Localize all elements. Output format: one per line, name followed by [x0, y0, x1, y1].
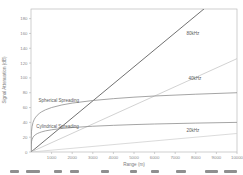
- caption-smudge: [70, 170, 79, 173]
- x-tick-label: 2000: [67, 155, 77, 160]
- x-tick-label: 6000: [150, 155, 160, 160]
- caption-smudge: [130, 170, 137, 173]
- x-tick-label: 5000: [129, 155, 139, 160]
- y-tick-label: 80: [23, 90, 28, 95]
- series-label: 20kHz: [187, 128, 201, 133]
- caption-smudge: [224, 170, 237, 173]
- y-tick-label: 60: [23, 105, 28, 110]
- plot-box: [31, 9, 237, 152]
- x-tick-label: 10000: [231, 155, 243, 160]
- attenuation-vs-range-chart: 0204060801001201401601801000200030004000…: [0, 0, 243, 175]
- series-line-20khz: [31, 133, 237, 152]
- series-label: 80kHz: [187, 31, 201, 36]
- caption-smudge: [26, 170, 40, 173]
- caption-smudge: [151, 170, 159, 173]
- x-tick-label: 9000: [212, 155, 222, 160]
- y-tick-label: 180: [20, 16, 28, 21]
- y-tick-label: 160: [20, 31, 28, 36]
- y-tick-label: 20: [23, 135, 28, 140]
- caption-smudge: [205, 170, 218, 173]
- y-tick-label: 140: [20, 46, 28, 51]
- x-tick-label: 1000: [47, 155, 57, 160]
- x-tick-label: 4000: [109, 155, 119, 160]
- axes: 0204060801001201401601801000200030004000…: [20, 9, 243, 160]
- x-tick-label: 7000: [170, 155, 180, 160]
- series-label: Spherical Spreading: [38, 98, 79, 103]
- x-tick-label: 8000: [191, 155, 201, 160]
- x-tick-label: 3000: [88, 155, 98, 160]
- series-label: Cylindrical Spreading: [36, 124, 79, 129]
- series-label: 40kHz: [189, 76, 203, 81]
- y-tick-label: 40: [23, 120, 28, 125]
- caption-smudge: [54, 170, 62, 173]
- y-tick-label: 100: [20, 75, 28, 80]
- y-tick-label: 120: [20, 61, 28, 66]
- chart-canvas: 0204060801001201401601801000200030004000…: [0, 0, 243, 175]
- x-axis-title: Range (m): [123, 162, 145, 167]
- caption-smudge: [10, 170, 19, 173]
- y-tick-label: 0: [25, 150, 28, 155]
- series-labels: 80kHz40kHz20kHzSpherical SpreadingCylind…: [36, 31, 202, 133]
- caption-smudge: [101, 170, 109, 173]
- cropped-caption-row: [0, 169, 243, 175]
- y-axis-title: Signal Attenuation (dB): [2, 56, 7, 103]
- caption-smudge: [176, 170, 186, 173]
